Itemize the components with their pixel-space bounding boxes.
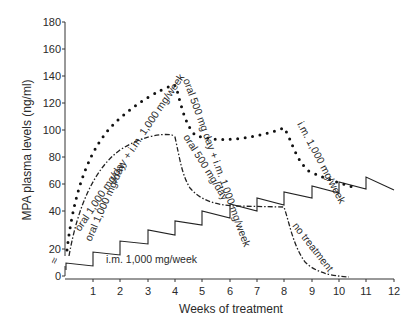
chart: 180 160 140 120 100 80 60 40 20 0 ≈ 1 2 … bbox=[0, 0, 420, 327]
x-axis bbox=[65, 279, 394, 282]
x-tick-label: 6 bbox=[227, 285, 233, 297]
x-tick-label: 7 bbox=[254, 285, 260, 297]
annotation-im-weekly: i.m. 1,000 mg/week bbox=[106, 253, 198, 265]
x-tick-label: 12 bbox=[388, 285, 400, 297]
x-axis-title: Weeks of treatment bbox=[179, 302, 283, 316]
y-tick-labels: 180 160 140 120 100 80 60 40 20 0 bbox=[43, 16, 61, 282]
y-tick-label: 160 bbox=[43, 43, 61, 55]
x-tick-label: 9 bbox=[309, 285, 315, 297]
y-tick-label: 80 bbox=[49, 151, 61, 163]
x-tick-label: 1 bbox=[90, 285, 96, 297]
y-tick-label: 120 bbox=[43, 97, 61, 109]
annotation-im-weekly-late: i.m. 1,000 mg/week bbox=[295, 119, 349, 206]
y-tick-label: 20 bbox=[49, 243, 61, 255]
x-tick-label: 11 bbox=[360, 285, 371, 297]
x-tick-label: 8 bbox=[281, 285, 287, 297]
axis-break-mark: ≈ bbox=[47, 256, 60, 266]
x-tick-label: 5 bbox=[199, 285, 205, 297]
y-tick-label: 100 bbox=[43, 124, 61, 136]
x-tick-label: 4 bbox=[172, 285, 178, 297]
y-tick-label: 40 bbox=[49, 205, 61, 217]
y-axis bbox=[62, 22, 65, 276]
annotation-no-treatment: no treatment bbox=[290, 220, 336, 274]
y-tick-label: 180 bbox=[43, 16, 61, 28]
x-tick-label: 2 bbox=[117, 285, 123, 297]
y-tick-label: 140 bbox=[43, 70, 61, 82]
y-tick-label: 60 bbox=[49, 178, 61, 190]
x-tick-labels: 1 2 3 4 5 6 7 8 9 10 11 12 bbox=[90, 285, 400, 297]
x-tick-label: 3 bbox=[145, 285, 151, 297]
annotation-oral1000-plus-im: oral 1,000 mg/day + i.m. 1,000 mg/week bbox=[72, 71, 187, 233]
y-axis-title: MPA plasma levels (ng/ml) bbox=[20, 79, 34, 220]
y-tick-label: 0 bbox=[55, 270, 61, 282]
x-tick-label: 10 bbox=[333, 285, 345, 297]
